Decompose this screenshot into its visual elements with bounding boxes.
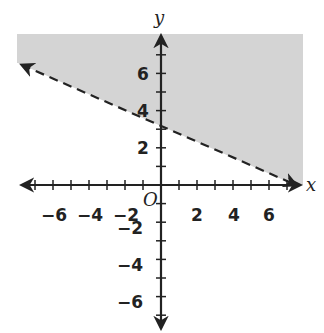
y-tick-label: 6 <box>137 64 149 84</box>
y-tick-label: 2 <box>137 138 149 158</box>
x-tick-label: 6 <box>263 205 275 225</box>
origin-label: O <box>143 189 158 210</box>
coordinate-graph: x y O −6 −4 −2 2 4 6 6 4 2 −2 −4 −6 <box>0 0 324 333</box>
x-tick-label: 2 <box>191 205 203 225</box>
y-tick-label: −6 <box>117 292 143 312</box>
y-tick-label: −2 <box>117 218 143 238</box>
x-tick-label: −6 <box>41 205 67 225</box>
y-axis-label: y <box>153 7 165 28</box>
x-axis-label: x <box>306 174 316 195</box>
x-tick-label: −4 <box>77 205 103 225</box>
x-tick-label: 4 <box>228 205 240 225</box>
y-tick-label: −4 <box>117 255 143 275</box>
y-tick-label: 4 <box>137 101 149 121</box>
